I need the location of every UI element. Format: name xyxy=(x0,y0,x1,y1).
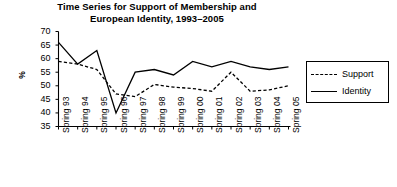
legend-label-identity: Identity xyxy=(342,86,371,96)
time-series-chart: Time Series for Support of Membership an… xyxy=(0,0,397,187)
legend-item-support: Support xyxy=(311,67,374,81)
chart-legend: Support Identity xyxy=(306,61,389,103)
legend-label-support: Support xyxy=(342,69,374,79)
axes-group xyxy=(56,32,291,130)
series-line-identity xyxy=(59,42,289,113)
series-group xyxy=(59,42,289,113)
legend-swatch-dashed-icon xyxy=(311,74,337,75)
series-line-support xyxy=(59,61,289,96)
legend-item-identity: Identity xyxy=(311,84,371,98)
legend-swatch-solid-icon xyxy=(311,91,337,92)
